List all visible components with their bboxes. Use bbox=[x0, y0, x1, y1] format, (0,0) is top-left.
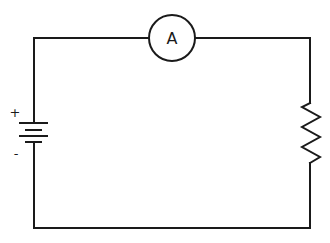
circuit-wires bbox=[34, 38, 310, 228]
wire-bottom bbox=[34, 142, 310, 228]
battery-positive-label: + bbox=[10, 105, 21, 120]
ammeter-label: A bbox=[167, 29, 178, 48]
ammeter-icon: A bbox=[149, 15, 195, 61]
resistor-zigzag bbox=[302, 103, 320, 163]
wire-top-right bbox=[195, 38, 310, 103]
battery-negative-label: - bbox=[14, 146, 19, 161]
wire-top-left bbox=[34, 38, 149, 72]
resistor-icon bbox=[302, 103, 320, 163]
circuit-diagram: + - A bbox=[0, 0, 330, 243]
battery-icon: + - bbox=[10, 105, 48, 161]
